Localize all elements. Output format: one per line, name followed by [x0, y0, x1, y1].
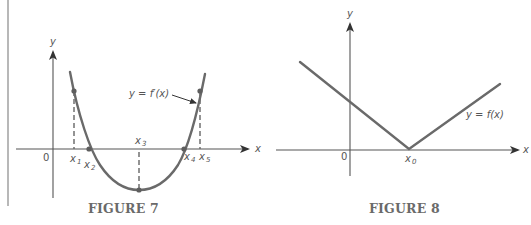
- y-axis-label: y: [346, 8, 354, 19]
- figures-canvas: x y 0 x1 x2 x3 x4 x5 y = f′(x): [0, 0, 531, 225]
- origin-label: 0: [341, 151, 347, 162]
- point-x2: [86, 146, 91, 151]
- y-axis-label: y: [49, 36, 57, 47]
- figure-7: x y 0 x1 x2 x3 x4 x5 y = f′(x): [16, 36, 261, 198]
- label-x3: x3: [134, 135, 146, 148]
- figures-page: x y 0 x1 x2 x3 x4 x5 y = f′(x): [0, 0, 531, 225]
- point-x3: [136, 187, 141, 192]
- label-x5: x5: [198, 151, 211, 164]
- curve-label: y = f′(x): [128, 88, 169, 99]
- label-x2: x2: [83, 159, 96, 172]
- curve-label: y = f(x): [465, 109, 504, 120]
- label-x4: x4: [183, 151, 195, 164]
- point-x1: [71, 88, 76, 93]
- figure-8: x y 0 x0 y = f(x): [276, 8, 529, 176]
- label-x1: x1: [69, 153, 81, 166]
- figure-8-caption: FIGURE 8: [369, 201, 440, 216]
- label-x0: x0: [404, 153, 417, 166]
- figure-7-caption: FIGURE 7: [88, 201, 159, 216]
- abs-curve: [300, 62, 500, 149]
- origin-label: 0: [43, 152, 49, 163]
- x-axis-label: x: [522, 144, 529, 155]
- curve-label-pointer: [172, 95, 196, 103]
- point-x5: [197, 88, 202, 93]
- x-axis-label: x: [254, 143, 261, 154]
